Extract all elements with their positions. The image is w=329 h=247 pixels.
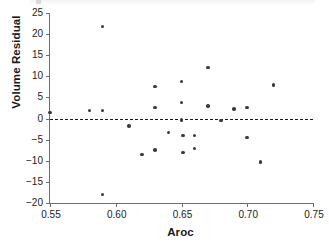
x-tick: 0.60 [116,203,117,207]
data-point [272,83,276,87]
data-point [259,160,263,164]
data-point [219,119,223,123]
y-tick-label: 25 [32,7,43,18]
y-tick: 25 [46,13,50,14]
plot-area: −20−15−10−50510152025 0.550.600.650.700.… [49,13,313,204]
data-point [101,109,105,113]
data-point [88,109,92,113]
y-tick-label: 10 [32,70,43,81]
x-tick-label: 0.65 [173,209,192,220]
data-point [153,85,157,89]
y-tick: 15 [46,55,50,56]
y-tick-label: −5 [32,134,43,145]
data-point [101,193,105,197]
y-tick: 20 [46,34,50,35]
data-point [140,153,144,157]
x-tick-label: 0.60 [107,209,126,220]
y-axis-title: Volume Residual [10,2,22,122]
data-point [232,107,236,111]
data-point [153,106,157,110]
x-tick: 0.70 [247,203,248,207]
data-point [245,106,249,110]
y-tick-label: 0 [37,113,43,124]
x-tick-label: 0.70 [239,209,258,220]
x-tick-label: 0.75 [304,209,323,220]
data-point [180,101,184,105]
scan-artifact-mark [36,0,41,4]
y-tick: 10 [46,76,50,77]
data-point [180,80,184,84]
y-tick-label: −10 [26,155,43,166]
scan-artifact-strip [30,0,315,5]
data-point [206,104,210,108]
x-tick: 0.55 [50,203,51,207]
x-axis-title: Aroc [49,226,312,238]
data-point [206,66,210,70]
x-tick: 0.75 [313,203,314,207]
data-point [101,25,105,29]
y-tick-label: 5 [37,91,43,102]
x-tick-label: 0.55 [41,209,60,220]
data-point [181,151,185,155]
y-tick: −5 [46,140,50,141]
data-point [127,124,131,128]
data-point [181,134,185,138]
data-point [180,118,184,122]
y-tick-label: −20 [26,197,43,208]
scatter-plot-figure: Volume Residual −20−15−10−50510152025 0.… [0,0,329,247]
y-tick: 5 [46,97,50,98]
y-tick-label: −15 [26,176,43,187]
data-point [153,148,157,152]
y-tick-label: 20 [32,28,43,39]
x-tick: 0.65 [182,203,183,207]
y-tick: −15 [46,182,50,183]
data-point [48,111,52,115]
data-point [167,131,171,135]
data-point [193,147,197,151]
data-point [245,136,249,140]
y-tick-label: 15 [32,49,43,60]
data-point [193,134,197,138]
y-tick: −10 [46,161,50,162]
